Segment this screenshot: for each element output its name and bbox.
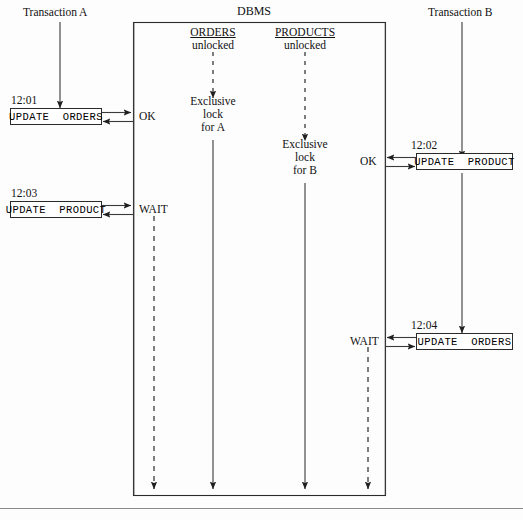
dbms-boundary-box xyxy=(134,23,386,496)
statement-box-1201[interactable]: UPDATE ORDERS xyxy=(10,108,102,125)
resource-state-orders-final-line2: lock xyxy=(173,108,253,121)
event-time-1201: 12:01 xyxy=(11,94,37,107)
resource-name-orders: ORDERS xyxy=(173,26,253,39)
response-label-1203: WAIT xyxy=(139,203,168,216)
resource-name-products: PRODUCTS xyxy=(260,26,350,39)
event-time-1203: 12:03 xyxy=(11,187,37,200)
statement-box-1203[interactable]: UPDATE PRODUCT xyxy=(10,201,102,218)
resource-state-products-initial: unlocked xyxy=(260,39,350,52)
event-time-1202: 12:02 xyxy=(411,139,437,152)
transaction-b-label: Transaction B xyxy=(428,6,492,19)
resource-state-products-final-line3: for B xyxy=(265,164,345,177)
footer-divider xyxy=(0,508,523,509)
resource-state-products-final-line2: lock xyxy=(265,151,345,164)
response-label-1202: OK xyxy=(360,155,377,168)
resource-state-products-final-line1: Exclusive xyxy=(265,138,345,151)
transaction-a-label: Transaction A xyxy=(23,6,87,19)
resource-state-orders-initial: unlocked xyxy=(173,39,253,52)
resource-state-orders-final-line1: Exclusive xyxy=(173,95,253,108)
response-label-1201: OK xyxy=(139,110,156,123)
statement-box-1204[interactable]: UPDATE ORDERS xyxy=(416,333,513,350)
response-label-1204: WAIT xyxy=(350,335,379,348)
resource-state-orders-final-line3: for A xyxy=(173,121,253,134)
dbms-label: DBMS xyxy=(237,5,271,18)
diagram-canvas: Transaction A Transaction B DBMS ORDERS … xyxy=(0,0,523,520)
diagram-vector-layer xyxy=(0,0,523,520)
event-time-1204: 12:04 xyxy=(411,319,437,332)
statement-box-1202[interactable]: UPDATE PRODUCT xyxy=(416,153,513,170)
